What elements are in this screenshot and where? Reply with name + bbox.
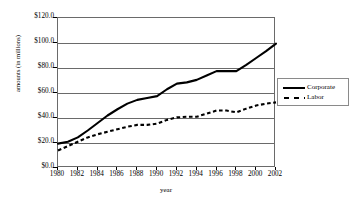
y-tick-label: $40.0	[0, 113, 54, 120]
x-axis-labels: 1980198219841986198819901992199419961998…	[0, 170, 357, 182]
solid-line-icon	[281, 83, 307, 92]
legend-item-corporate: Corporate	[281, 82, 345, 92]
line-chart: amounts (in millions) $0.0$20.0$40.0$60.…	[0, 0, 357, 205]
legend-label-corporate: Corporate	[307, 83, 335, 92]
plot-area	[57, 17, 275, 167]
legend-item-labor: Labor	[281, 92, 345, 102]
legend-label-labor: Labor	[307, 93, 324, 102]
chart-legend: Corporate Labor	[277, 78, 349, 106]
x-tick-label: 2002	[259, 170, 291, 178]
dashed-line-icon	[281, 93, 307, 102]
series-line-corporate	[58, 44, 276, 144]
x-axis-title: year	[57, 186, 275, 194]
y-tick-label: $80.0	[0, 63, 54, 70]
y-tick-label: $120.0	[0, 13, 54, 20]
series-line-labor	[58, 102, 276, 150]
y-tick-label: $60.0	[0, 88, 54, 95]
series-layer	[58, 18, 276, 168]
y-tick-label: $20.0	[0, 138, 54, 145]
y-tick-label: $100.0	[0, 38, 54, 45]
